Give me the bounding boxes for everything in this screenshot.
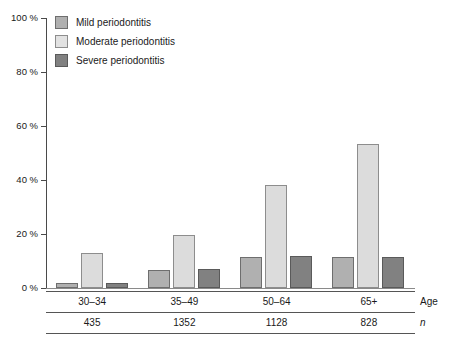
bar-moderate — [357, 144, 379, 288]
legend-label-mild: Mild periodontitis — [76, 17, 151, 28]
bar-severe — [382, 257, 404, 288]
legend-item-severe: Severe periodontitis — [55, 52, 175, 69]
bar-mild — [148, 270, 170, 288]
y-tick-label-60: 60 % — [16, 121, 38, 131]
bar-chart: 100 % 80 % 60 % 40 % 20 % 0 % Mild perio… — [0, 0, 454, 337]
x-axis-line — [46, 288, 415, 289]
legend-item-mild: Mild periodontitis — [55, 14, 175, 31]
age-row-label: Age — [420, 291, 438, 312]
table-rule-bottom — [46, 333, 415, 334]
sample-size-row: 435 1352 1128 828 — [46, 312, 415, 333]
bar-severe — [290, 256, 312, 288]
age-cell: 50–64 — [231, 291, 323, 312]
bar-moderate — [173, 235, 195, 288]
age-cell: 30–34 — [46, 291, 138, 312]
legend-swatch-severe-icon — [55, 54, 68, 67]
y-axis: 100 % 80 % 60 % 40 % 20 % 0 % — [0, 0, 38, 300]
bar-mild — [240, 257, 262, 288]
y-tick-label-40: 40 % — [16, 175, 38, 185]
legend-label-severe: Severe periodontitis — [76, 55, 164, 66]
y-tick-label-0: 0 % — [22, 283, 38, 293]
sample-size-cell: 1352 — [138, 312, 230, 333]
age-cell: 35–49 — [138, 291, 230, 312]
legend-item-moderate: Moderate periodontitis — [55, 33, 175, 50]
bar-group — [332, 18, 404, 288]
y-tick-label-100: 100 % — [11, 13, 38, 23]
age-cell: 65+ — [323, 291, 415, 312]
bar-moderate — [81, 253, 103, 288]
bar-mild — [332, 257, 354, 288]
legend: Mild periodontitis Moderate periodontiti… — [55, 14, 175, 71]
legend-swatch-moderate-icon — [55, 35, 68, 48]
y-tick-label-80: 80 % — [16, 67, 38, 77]
bar-mild — [56, 283, 78, 288]
sample-size-cell: 1128 — [231, 312, 323, 333]
sample-size-row-label: n — [420, 312, 426, 333]
bar-moderate — [265, 185, 287, 288]
age-row: 30–34 35–49 50–64 65+ — [46, 291, 415, 312]
legend-swatch-mild-icon — [55, 16, 68, 29]
sample-size-cell: 828 — [323, 312, 415, 333]
bar-severe — [198, 269, 220, 288]
sample-size-cell: 435 — [46, 312, 138, 333]
legend-label-moderate: Moderate periodontitis — [76, 36, 175, 47]
y-tick-label-20: 20 % — [16, 229, 38, 239]
bar-severe — [106, 283, 128, 288]
bar-group — [240, 18, 312, 288]
